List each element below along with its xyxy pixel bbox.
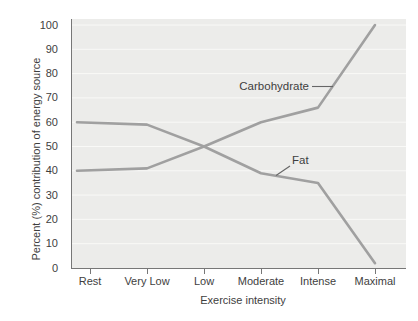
y-tick-label: 90 [10,43,58,56]
y-tick-label: 10 [10,237,58,250]
fat-series-label: Fat [292,154,309,166]
y-tick-label: 40 [10,164,58,177]
y-tick-label: 0 [10,262,58,275]
chart-canvas [0,0,418,321]
x-category-label: Maximal [333,275,417,288]
y-tick-label: 30 [10,189,58,202]
y-tick-label: 20 [10,213,58,226]
y-tick-label: 100 [10,19,58,32]
carbohydrate-series-label: Carbohydrate [239,80,309,92]
y-tick-label: 50 [10,140,58,153]
energy-source-chart: Percent (%) contribution of energy sourc… [0,0,418,321]
plot-area-background [71,19,406,268]
y-tick-label: 70 [10,91,58,104]
x-axis-title: Exercise intensity [143,294,343,306]
y-tick-label: 60 [10,116,58,129]
y-tick-label: 80 [10,67,58,80]
